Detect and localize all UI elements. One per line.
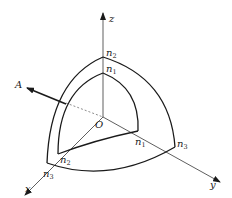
vector-a-label: A [14, 79, 22, 90]
inner-arc-y-to-x [58, 131, 138, 154]
vector-a-dashed-extension [66, 103, 103, 117]
y-axis-label: y [209, 179, 216, 190]
outer-y-label: n3 [177, 138, 188, 151]
inner-surface [58, 73, 138, 154]
origin-label: O [95, 119, 103, 130]
outer-arc-x-to-z [47, 57, 103, 163]
x-axis-label: x [25, 183, 31, 194]
octant-surfaces-diagram: z y x O A n2 n1 n1 n3 n2 n3 [0, 0, 232, 198]
z-axis-label: z [108, 13, 115, 24]
inner-y-label: n1 [135, 136, 146, 149]
outer-x-label: n3 [43, 168, 54, 181]
y-axis [103, 117, 220, 182]
inner-z-label: n1 [106, 63, 117, 76]
vector-a [27, 88, 66, 104]
inner-x-label: n2 [60, 154, 71, 167]
inner-arc-z-to-y [103, 73, 138, 131]
